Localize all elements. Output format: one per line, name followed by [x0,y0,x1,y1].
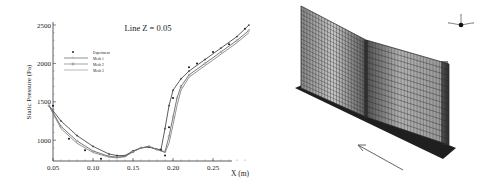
mesh-refinement-band [364,40,368,118]
chart-canvas: 0.050.100.150.200.251000150020002500 Lin… [0,0,250,187]
pressure-chart: 0.050.100.150.200.251000150020002500 Lin… [0,0,250,187]
axes-triad-icon [448,14,473,27]
data-point [52,105,54,107]
data-point [76,140,78,142]
series-line [49,25,249,156]
legend-experiment-marker [72,51,74,53]
y-tick-label: 2000 [37,60,52,68]
series-layer [48,24,250,160]
data-point [164,155,166,157]
legend-mesh1-label: Mesh 1 [93,57,104,61]
y-tick-label: 2500 [37,22,52,30]
legend: Experiment + Mesh 1 Mesh 2 Mesh 3 [64,51,110,73]
data-point [228,43,230,45]
data-point [180,86,182,88]
x-axis-label: X (m) [231,169,250,178]
axis-ticks: 0.050.100.150.200.251000150020002500 [37,22,245,173]
legend-mesh2-marker [72,63,74,65]
legend-mesh2-label: Mesh 2 [93,63,104,67]
data-point [172,97,174,99]
data-point [204,63,206,65]
y-axis-label: Static Pressure (Pa) [25,64,33,119]
data-point [212,51,214,53]
series-line [49,33,249,158]
y-tick-label: 1000 [37,137,52,145]
legend-experiment-label: Experiment [93,51,110,55]
data-point [236,39,238,41]
legend-mesh3-label: Mesh 3 [93,69,104,73]
mesh-refinement-band-edge [441,61,448,145]
chart-title: Line Z = 0.05 [125,23,172,33]
x-tick-label: 0.20 [167,164,180,172]
data-point [164,128,166,130]
data-point [196,62,198,64]
x-tick-label: 0.25 [207,164,220,172]
x-tick-label: 0.15 [127,164,140,172]
data-point [168,105,170,107]
data-point [92,150,94,152]
data-point [172,116,174,118]
data-point [188,74,190,76]
data-point [84,149,86,151]
data-point [188,66,190,68]
mesh-figure [250,0,497,187]
data-point [220,51,222,53]
data-point [68,138,70,140]
flow-direction-arrow-icon [358,145,403,170]
x-tick-label: 0.10 [87,164,100,172]
data-point [168,126,170,128]
data-point [100,158,102,160]
x-tick-label: 0.05 [47,164,60,172]
data-point [168,135,170,137]
mesh-canvas [250,0,497,187]
data-point [176,97,178,99]
